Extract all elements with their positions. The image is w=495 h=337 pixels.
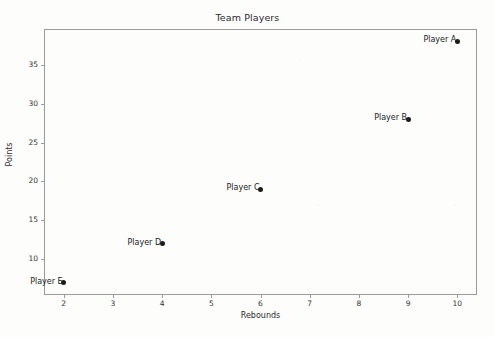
y-tick-label: 10 bbox=[16, 254, 38, 263]
x-tick-label: 9 bbox=[393, 299, 423, 308]
y-axis-title: Points bbox=[5, 135, 14, 175]
data-point-marker bbox=[455, 39, 460, 44]
data-point-label: Player D bbox=[127, 238, 161, 247]
x-tick-mark bbox=[261, 295, 262, 298]
y-tick-label: 20 bbox=[16, 176, 38, 185]
data-point-label: Player A bbox=[423, 35, 456, 44]
x-tick-mark bbox=[113, 295, 114, 298]
data-point-marker bbox=[160, 241, 165, 246]
x-tick-mark bbox=[310, 295, 311, 298]
x-tick-label: 4 bbox=[147, 299, 177, 308]
y-tick-label: 25 bbox=[16, 138, 38, 147]
x-tick-label: 5 bbox=[196, 299, 226, 308]
x-tick-label: 7 bbox=[295, 299, 325, 308]
data-point-marker bbox=[406, 117, 411, 122]
data-point-marker bbox=[258, 187, 263, 192]
y-tick-label: 15 bbox=[16, 215, 38, 224]
x-tick-label: 6 bbox=[246, 299, 276, 308]
x-tick-mark bbox=[211, 295, 212, 298]
x-axis-title: Rebounds bbox=[44, 311, 477, 320]
x-tick-mark bbox=[64, 295, 65, 298]
data-point-label: Player C bbox=[226, 183, 259, 192]
x-tick-mark bbox=[162, 295, 163, 298]
chart-page: Team Players 2345678910 101520253035 Reb… bbox=[0, 0, 495, 337]
x-tick-label: 8 bbox=[344, 299, 374, 308]
x-tick-mark bbox=[408, 295, 409, 298]
x-tick-label: 2 bbox=[49, 299, 79, 308]
data-point-label: Player E bbox=[30, 277, 63, 286]
x-tick-label: 3 bbox=[98, 299, 128, 308]
x-tick-mark bbox=[457, 295, 458, 298]
y-tick-label: 30 bbox=[16, 99, 38, 108]
x-tick-mark bbox=[359, 295, 360, 298]
y-tick-label: 35 bbox=[16, 60, 38, 69]
chart-title: Team Players bbox=[0, 12, 495, 23]
data-point-label: Player B bbox=[374, 113, 407, 122]
plot-area bbox=[44, 29, 477, 295]
x-tick-label: 10 bbox=[442, 299, 472, 308]
